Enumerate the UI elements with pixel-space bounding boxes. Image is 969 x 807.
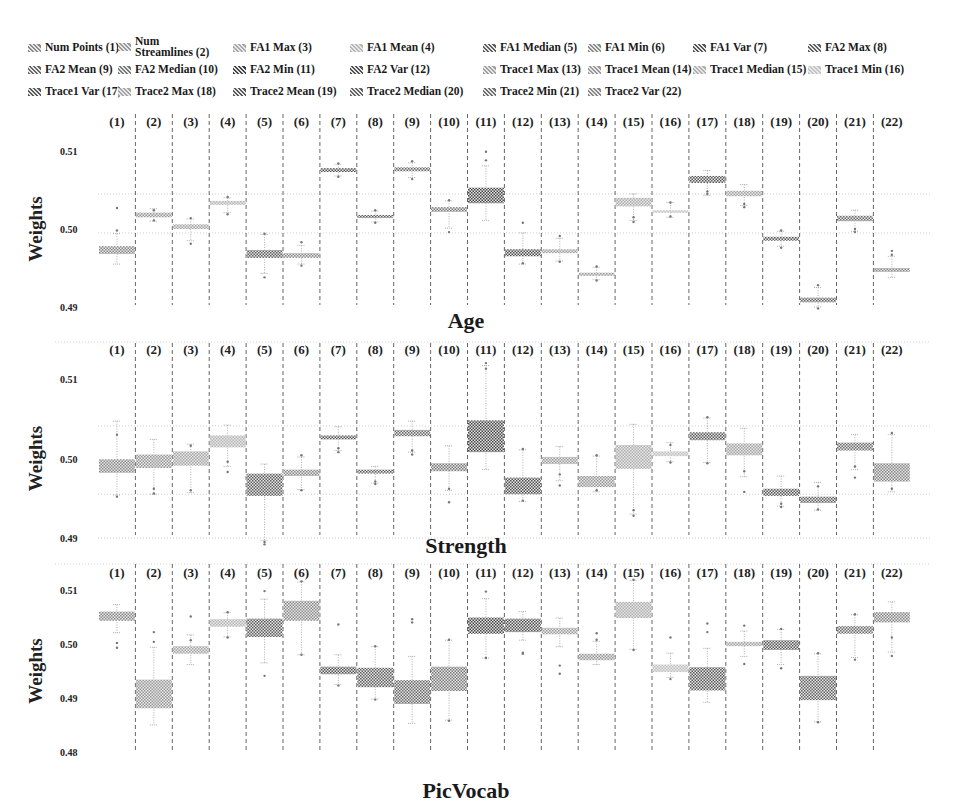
category-label: (6) [294, 342, 309, 357]
box-13 [542, 447, 578, 487]
y-tick-label: 0.51 [60, 585, 78, 596]
box-19 [763, 628, 799, 670]
box-7 [320, 427, 356, 454]
box-4 [210, 611, 246, 639]
box-12 [505, 612, 541, 655]
panel-title: Strength [425, 533, 507, 558]
category-label: (2) [146, 114, 161, 129]
box-18 [726, 624, 762, 665]
category-label: (10) [438, 114, 460, 129]
category-label: (8) [368, 114, 383, 129]
box-2 [136, 631, 172, 725]
box-21 [837, 435, 873, 479]
panel-title: PicVocab [422, 778, 509, 803]
category-label: (13) [549, 114, 571, 129]
category-label: (19) [770, 565, 792, 580]
category-label: (21) [844, 342, 866, 357]
category-label: (11) [475, 114, 496, 129]
box-5 [247, 590, 283, 677]
category-label: (1) [109, 342, 124, 357]
box-16 [653, 201, 689, 217]
box-15 [616, 579, 652, 652]
category-label: (16) [660, 114, 682, 129]
box-7 [320, 623, 356, 686]
y-axis-label: Weights [25, 196, 46, 261]
category-label: (1) [109, 565, 124, 580]
y-tick-label: 0.51 [60, 374, 78, 385]
category-label: (7) [331, 565, 346, 580]
box-12 [505, 222, 541, 265]
category-label: (8) [368, 342, 383, 357]
box-4 [210, 196, 246, 216]
box-21 [837, 210, 873, 233]
category-label: (20) [807, 342, 829, 357]
category-label: (12) [512, 114, 534, 129]
category-label: (7) [331, 114, 346, 129]
category-label: (14) [586, 565, 608, 580]
category-label: (8) [368, 565, 383, 580]
box-7 [320, 162, 356, 178]
category-label: (4) [220, 342, 235, 357]
category-label: (2) [146, 342, 161, 357]
box-22 [874, 432, 910, 492]
category-label: (12) [512, 565, 534, 580]
y-tick-label: 0.49 [60, 533, 78, 544]
box-8 [357, 645, 393, 701]
category-label: (3) [183, 342, 198, 357]
y-tick-label: 0.50 [60, 454, 78, 465]
category-label: (12) [512, 342, 534, 357]
category-label: (21) [844, 565, 866, 580]
category-label: (6) [294, 114, 309, 129]
category-label: (3) [183, 565, 198, 580]
box-6 [284, 580, 320, 656]
category-label: (22) [881, 342, 903, 357]
box-20 [800, 284, 836, 310]
panel-title: Age [448, 308, 485, 333]
box-6 [284, 454, 320, 491]
category-label: (11) [475, 342, 496, 357]
box-11 [468, 590, 504, 659]
box-22 [874, 602, 910, 657]
category-label: (19) [770, 114, 792, 129]
box-1 [99, 605, 135, 649]
category-label: (15) [623, 114, 645, 129]
category-label: (18) [733, 114, 755, 129]
box-10 [431, 446, 467, 504]
box-14 [579, 265, 615, 281]
panel-age: 0.510.500.49Weights(1)(2)(3)(4)(5)(6)(7)… [25, 114, 930, 333]
category-label: (4) [220, 114, 235, 129]
category-label: (18) [733, 565, 755, 580]
box-17 [689, 416, 725, 465]
y-tick-label: 0.49 [60, 693, 78, 704]
box-18 [726, 185, 762, 209]
category-label: (5) [257, 342, 272, 357]
y-axis-label: Weights [25, 638, 46, 703]
y-tick-label: 0.51 [60, 146, 78, 157]
box-16 [653, 443, 689, 464]
box-12 [505, 448, 541, 502]
category-label: (14) [586, 342, 608, 357]
y-tick-label: 0.50 [60, 639, 78, 650]
category-label: (20) [807, 565, 829, 580]
box-10 [431, 199, 467, 233]
y-axis-label: Weights [25, 426, 46, 491]
box-5 [247, 232, 283, 278]
category-label: (10) [438, 342, 460, 357]
box-21 [837, 613, 873, 661]
box-9 [394, 618, 430, 723]
box-22 [874, 250, 910, 278]
box-13 [542, 235, 578, 263]
box-20 [800, 482, 836, 510]
category-label: (17) [697, 114, 719, 129]
category-label: (15) [623, 342, 645, 357]
category-label: (16) [660, 342, 682, 357]
category-label: (21) [844, 114, 866, 129]
box-1 [99, 207, 135, 264]
box-10 [431, 638, 467, 721]
category-label: (9) [405, 565, 420, 580]
y-tick-label: 0.50 [60, 224, 78, 235]
box-6 [284, 241, 320, 267]
category-label: (14) [586, 114, 608, 129]
category-label: (7) [331, 342, 346, 357]
box-1 [99, 421, 135, 498]
